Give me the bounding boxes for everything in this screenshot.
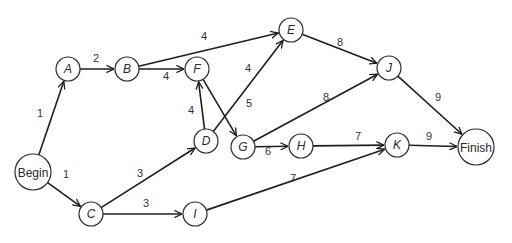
node-h: H: [289, 134, 313, 158]
node-label: Finish: [460, 141, 492, 155]
node-label: H: [297, 139, 306, 153]
node-k: K: [385, 133, 409, 157]
edge-weight-label: 1: [63, 168, 69, 180]
edge-h-to-k: 7: [313, 130, 384, 146]
edge-weight-label: 6: [265, 145, 271, 157]
edge-e-to-j: 8: [302, 34, 377, 63]
edge-weight-label: 3: [137, 167, 143, 179]
edge-b-to-f: 4: [139, 69, 184, 82]
edge-weight-label: 4: [201, 30, 207, 42]
edge-weight-label: 7: [355, 130, 361, 142]
edge-weight-label: 1: [37, 107, 43, 119]
edge-begin-to-a: 1: [37, 81, 64, 155]
node-label: C: [87, 207, 96, 221]
edge-weight-label: 3: [143, 197, 149, 209]
arrow-line: [409, 145, 457, 146]
node-d: D: [194, 129, 218, 153]
arrow-line: [255, 146, 288, 147]
node-label: D: [202, 134, 211, 148]
edge-g-to-h: 6: [255, 145, 288, 157]
arrow-line: [139, 33, 279, 66]
edge-weight-label: 9: [426, 130, 432, 142]
arrow-line: [199, 82, 205, 129]
arrow-line: [313, 145, 384, 146]
node-begin: Begin: [15, 154, 51, 190]
edge-f-to-g: 5: [203, 79, 252, 135]
edge-k-to-finish: 9: [409, 130, 457, 147]
edge-a-to-b: 2: [80, 52, 114, 69]
edge-weight-label: 4: [188, 104, 194, 116]
node-f: F: [185, 57, 209, 81]
edge-weight-label: 9: [435, 91, 441, 103]
arrow-line: [48, 183, 81, 207]
edge-weight-label: 7: [290, 172, 296, 184]
edge-weight-label: 4: [163, 70, 169, 82]
edge-begin-to-c: 1: [48, 168, 81, 206]
edge-d-to-f: 4: [188, 82, 205, 129]
node-label: Begin: [18, 166, 49, 180]
arrow-line: [213, 40, 283, 131]
edge-d-to-e: 4: [213, 40, 283, 131]
node-label: A: [63, 62, 72, 76]
activity-network-diagram: 11244445886799337 BeginABFEJDGHKFinishCI: [0, 0, 512, 243]
node-c: C: [79, 202, 103, 226]
node-label: J: [385, 61, 393, 75]
edge-weight-label: 5: [246, 97, 252, 109]
node-g: G: [231, 135, 255, 159]
node-i: I: [183, 202, 207, 226]
edges-layer: 11244445886799337: [37, 30, 462, 214]
edge-weight-label: 4: [245, 62, 251, 74]
node-b: B: [115, 57, 139, 81]
node-label: K: [393, 138, 402, 152]
edge-j-to-finish: 9: [398, 76, 462, 134]
node-finish: Finish: [458, 129, 494, 165]
node-j: J: [377, 56, 401, 80]
node-a: A: [56, 57, 80, 81]
edge-weight-label: 8: [337, 36, 343, 48]
edge-weight-label: 2: [93, 52, 99, 64]
node-label: E: [287, 23, 296, 37]
node-label: B: [123, 62, 131, 76]
node-label: F: [193, 62, 201, 76]
edge-weight-label: 8: [323, 91, 329, 103]
edge-i-to-k: 7: [206, 149, 384, 210]
nodes-layer: BeginABFEJDGHKFinishCI: [15, 18, 494, 226]
node-e: E: [279, 18, 303, 42]
arrow-line: [398, 76, 462, 134]
edge-b-to-e: 4: [139, 30, 279, 66]
node-label: G: [238, 140, 247, 154]
